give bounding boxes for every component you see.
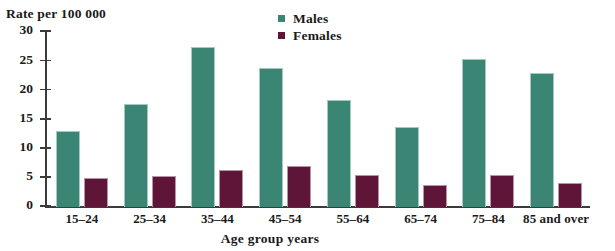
- bar-males-1: [124, 104, 148, 207]
- bar-males-3: [259, 68, 283, 207]
- x-tick-label: 55–64: [319, 211, 387, 227]
- y-tick-label: 10: [20, 140, 34, 154]
- bar-males-2: [191, 47, 215, 207]
- x-tick-label: 75–84: [455, 211, 523, 227]
- x-tick-label: 85 and over: [522, 211, 590, 227]
- bar-males-7: [530, 73, 554, 207]
- x-axis-category-labels: 15–2425–3435–4445–5455–6465–7475–8485 an…: [48, 211, 590, 227]
- bar-group: [387, 32, 455, 207]
- bar-females-1: [152, 176, 176, 208]
- legend-swatch-males: [278, 15, 285, 22]
- bar-males-0: [56, 131, 80, 207]
- legend-label-males: Males: [293, 12, 329, 26]
- x-tick-label: 35–44: [184, 211, 252, 227]
- bar-males-6: [462, 59, 486, 207]
- bar-group: [522, 32, 590, 207]
- bar-group: [184, 32, 252, 207]
- bar-groups: [48, 32, 590, 207]
- bar-group: [319, 32, 387, 207]
- bar-females-0: [84, 178, 108, 207]
- bar-group: [455, 32, 523, 207]
- bar-females-6: [490, 175, 514, 207]
- x-tick-label: 15–24: [48, 211, 116, 227]
- bar-group: [48, 32, 116, 207]
- bar-females-3: [287, 166, 311, 207]
- y-tick-label: 20: [20, 82, 34, 96]
- bar-females-4: [355, 175, 379, 207]
- bar-females-2: [219, 170, 243, 207]
- y-tick-label: 25: [20, 53, 34, 67]
- bar-chart: Rate per 100 000 Males Females 051015202…: [0, 0, 615, 251]
- legend-item-males: Males: [278, 11, 428, 26]
- bar-group: [251, 32, 319, 207]
- bar-females-7: [558, 183, 582, 208]
- y-tick-label: 0: [26, 199, 33, 213]
- x-tick-label: 65–74: [387, 211, 455, 227]
- x-axis-title: Age group years: [0, 231, 540, 247]
- x-tick-label: 25–34: [116, 211, 184, 227]
- plot-area: 051015202530: [45, 32, 590, 207]
- y-axis-title: Rate per 100 000: [6, 6, 106, 22]
- y-tick-label: 15: [20, 111, 34, 125]
- y-axis-line: [45, 32, 47, 207]
- y-tick-label: 5: [26, 170, 33, 184]
- y-tick-label: 30: [20, 24, 34, 38]
- bar-males-4: [327, 100, 351, 207]
- bar-females-5: [423, 185, 447, 207]
- x-tick-label: 45–54: [251, 211, 319, 227]
- bar-group: [116, 32, 184, 207]
- bar-males-5: [395, 127, 419, 208]
